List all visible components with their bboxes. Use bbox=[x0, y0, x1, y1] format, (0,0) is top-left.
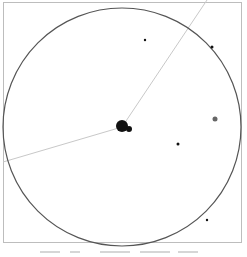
trajectory-path bbox=[3, 0, 207, 162]
dot-top-icon bbox=[144, 39, 146, 41]
trajectory-line bbox=[3, 0, 207, 162]
primary-body-icon bbox=[116, 120, 128, 132]
caption-text-fragment bbox=[178, 251, 198, 253]
caption-text-fragment bbox=[40, 251, 60, 253]
caption-text-fragment bbox=[100, 251, 130, 253]
caption-text-fragment bbox=[140, 251, 170, 253]
caption bbox=[0, 247, 247, 256]
dot-bottom-right-icon bbox=[206, 219, 208, 221]
celestial-objects bbox=[116, 39, 218, 221]
dot-top-right-icon bbox=[211, 46, 214, 49]
dot-mid-right-icon bbox=[177, 143, 180, 146]
dot-right-icon bbox=[213, 117, 218, 122]
companion-body-icon bbox=[126, 126, 132, 132]
caption-text-fragment bbox=[70, 251, 80, 253]
star-field-diagram bbox=[0, 0, 247, 257]
